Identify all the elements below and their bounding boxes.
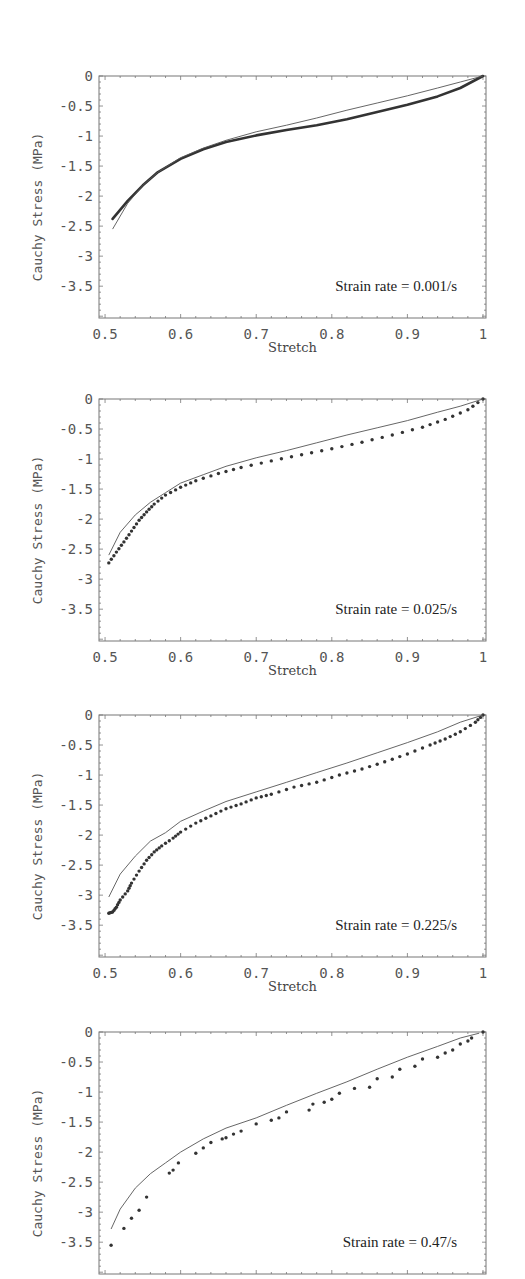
- data-point: [115, 550, 118, 553]
- y-tick-label: -1: [76, 767, 93, 783]
- data-point: [391, 758, 394, 761]
- data-point: [421, 426, 424, 429]
- data-point: [311, 1102, 314, 1105]
- data-point: [391, 433, 394, 436]
- data-point: [290, 455, 293, 458]
- data-point: [204, 817, 207, 820]
- data-point: [466, 408, 469, 411]
- data-point: [260, 795, 263, 798]
- data-point: [168, 1171, 171, 1174]
- data-point: [120, 544, 123, 547]
- data-point: [413, 749, 416, 752]
- data-point: [255, 1122, 258, 1125]
- data-point: [164, 842, 167, 845]
- data-point: [219, 809, 222, 812]
- data-point: [137, 869, 140, 872]
- data-point: [168, 839, 171, 842]
- data-point: [142, 513, 145, 516]
- y-tick-label: -1.5: [59, 481, 93, 497]
- model-curve: [109, 715, 483, 897]
- data-point: [398, 755, 401, 758]
- data-point: [145, 859, 148, 862]
- y-axis-title: Cauchy Stress (MPa): [30, 133, 45, 282]
- data-point: [381, 436, 384, 439]
- data-point: [421, 746, 424, 749]
- y-tick-label: -2: [76, 511, 93, 527]
- data-point: [145, 510, 148, 513]
- data-point: [459, 730, 462, 733]
- data-point: [433, 741, 436, 744]
- data-point: [239, 466, 242, 469]
- data-point: [145, 1195, 148, 1198]
- data-point: [320, 449, 323, 452]
- data-point: [376, 1077, 379, 1080]
- data-point: [110, 558, 113, 561]
- data-point: [270, 459, 273, 462]
- data-point: [169, 491, 172, 494]
- data-point: [194, 479, 197, 482]
- y-tick-label: -1: [76, 128, 93, 144]
- data-point: [224, 1136, 227, 1139]
- y-tick-label: -3: [76, 887, 93, 903]
- strain-rate-annotation: Strain rate = 0.025/s: [335, 601, 457, 617]
- data-point: [401, 431, 404, 434]
- y-tick-label: -3.5: [59, 1234, 93, 1250]
- data-point: [122, 1227, 125, 1230]
- data-point: [194, 1152, 197, 1155]
- chart-svg: 0-0.5-1-1.5-2-2.5-3-3.5Cauchy Stress (MP…: [0, 956, 525, 1279]
- strain-rate-annotation: Strain rate = 0.47/s: [343, 1234, 457, 1250]
- strain-rate-annotation: Strain rate = 0.001/s: [335, 278, 457, 294]
- data-point: [300, 453, 303, 456]
- y-tick-label: -1: [76, 1084, 93, 1100]
- y-tick-label: -2.5: [59, 541, 93, 557]
- data-point: [444, 418, 447, 421]
- data-point: [250, 798, 253, 801]
- y-tick-label: -3: [76, 248, 93, 264]
- y-tick-label: 0: [85, 391, 93, 407]
- data-point: [421, 1057, 424, 1060]
- y-tick-label: -1.5: [59, 797, 93, 813]
- data-point: [428, 743, 431, 746]
- model-curve: [109, 399, 483, 555]
- data-point: [239, 802, 242, 805]
- y-axis-title: Cauchy Stress (MPa): [30, 456, 45, 605]
- data-point: [391, 1075, 394, 1078]
- data-point: [140, 516, 143, 519]
- data-point: [370, 438, 373, 441]
- data-point: [310, 451, 313, 454]
- experimental-data: [109, 1030, 484, 1247]
- data-point: [353, 769, 356, 772]
- data-point: [481, 1030, 484, 1033]
- data-point: [122, 540, 125, 543]
- data-point: [451, 415, 454, 418]
- data-point: [112, 554, 115, 557]
- data-point: [350, 443, 353, 446]
- data-point: [147, 856, 150, 859]
- data-point: [270, 793, 273, 796]
- chart-panel-2: 0-0.5-1-1.5-2-2.5-3-3.50.50.60.70.80.91S…: [0, 323, 525, 683]
- data-point: [330, 1098, 333, 1101]
- data-point: [265, 794, 268, 797]
- y-tick-label: -3.5: [59, 917, 93, 933]
- data-point: [451, 1048, 454, 1051]
- data-point: [153, 502, 156, 505]
- data-point: [444, 1051, 447, 1054]
- data-point: [471, 405, 474, 408]
- data-point: [179, 830, 182, 833]
- data-point: [209, 474, 212, 477]
- data-point: [444, 737, 447, 740]
- data-point: [338, 1092, 341, 1095]
- data-point: [292, 785, 295, 788]
- chart-panel-1: 0-0.5-1-1.5-2-2.5-3-3.50.50.60.70.80.91S…: [0, 0, 525, 360]
- data-point: [137, 1209, 140, 1212]
- data-point: [454, 733, 457, 736]
- experimental-data: [107, 713, 485, 915]
- data-point: [383, 760, 386, 763]
- data-point: [135, 522, 138, 525]
- data-point: [232, 468, 235, 471]
- data-point: [360, 767, 363, 770]
- data-point: [217, 472, 220, 475]
- data-point: [132, 877, 135, 880]
- data-point: [376, 763, 379, 766]
- data-point: [234, 804, 237, 807]
